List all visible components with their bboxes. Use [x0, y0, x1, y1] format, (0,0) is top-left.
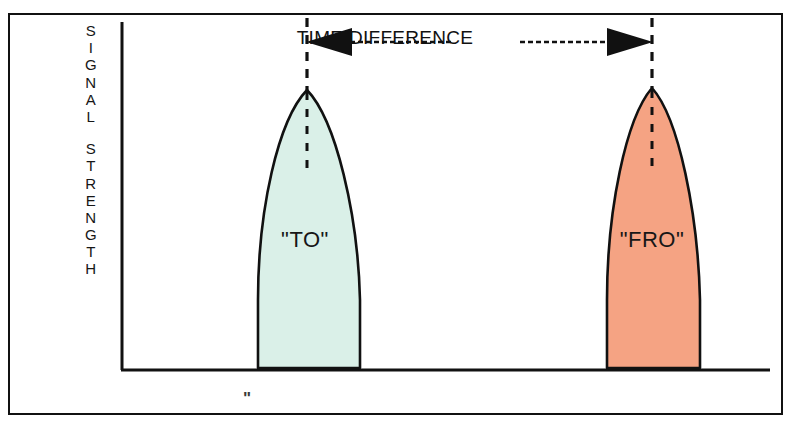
y-axis-letter: G	[78, 56, 104, 73]
y-axis-letter: S	[78, 22, 104, 39]
peak-label-fro: "FRO"	[620, 227, 685, 253]
peak-label-to: "TO"	[281, 227, 329, 253]
y-axis-letter: E	[78, 192, 104, 209]
y-axis-letter: N	[78, 209, 104, 226]
y-axis-letter: R	[78, 175, 104, 192]
y-axis-letter: N	[78, 74, 104, 91]
y-axis-letter: L	[78, 108, 104, 125]
y-axis-letter: A	[78, 91, 104, 108]
y-axis-letter: S	[78, 140, 104, 157]
figure-canvas: MLS Time Reference S I G N A L S T	[0, 0, 791, 424]
signal-plot	[0, 0, 791, 424]
y-axis-letter: H	[78, 260, 104, 277]
y-axis-letter: T	[78, 157, 104, 174]
y-axis-word-gap	[78, 125, 104, 140]
y-axis-label: S I G N A L S T R E N G T H	[78, 22, 104, 278]
y-axis-letter: G	[78, 226, 104, 243]
stray-quote-mark: "	[243, 389, 251, 409]
arrow-right-icon	[607, 28, 653, 56]
y-axis-letter: I	[78, 39, 104, 56]
y-axis-letter: T	[78, 243, 104, 260]
time-difference-label: TIME DIFFERENCE	[297, 27, 474, 49]
